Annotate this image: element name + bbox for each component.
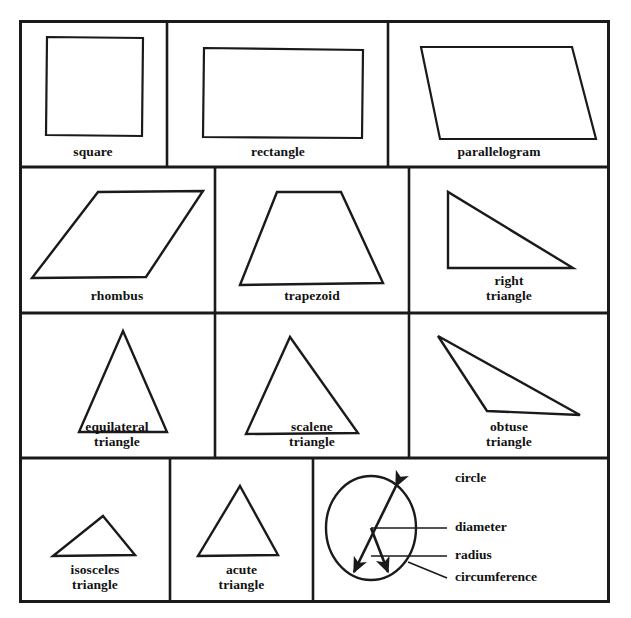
leader-line-circumference xyxy=(408,562,447,578)
shapes-chart: square rectangle parallelogram rhombus t… xyxy=(0,0,631,618)
circle-diagram-label-circumference: circumference xyxy=(455,569,537,584)
circle-diagram-label-radius: radius xyxy=(455,547,492,562)
shapes-chart-canvas xyxy=(0,0,631,618)
shape-square xyxy=(46,37,143,136)
shape-parallelogram xyxy=(421,47,596,139)
radius-arrow xyxy=(371,528,388,572)
circle-diagram-label-diameter: diameter xyxy=(455,519,507,534)
shape-obtuse-triangle xyxy=(438,336,580,415)
shape-equilateral-triangle xyxy=(79,331,167,432)
shape-isosceles-triangle xyxy=(53,516,135,556)
circle-diagram-label-circle: circle xyxy=(455,470,486,485)
shape-scalene-triangle xyxy=(246,337,358,434)
shape-rhombus xyxy=(32,191,203,278)
shape-rectangle xyxy=(203,48,363,138)
shape-trapezoid xyxy=(240,192,383,285)
shape-acute-triangle xyxy=(198,486,278,556)
diameter-arrow xyxy=(354,486,396,572)
shape-right-triangle xyxy=(448,192,573,268)
